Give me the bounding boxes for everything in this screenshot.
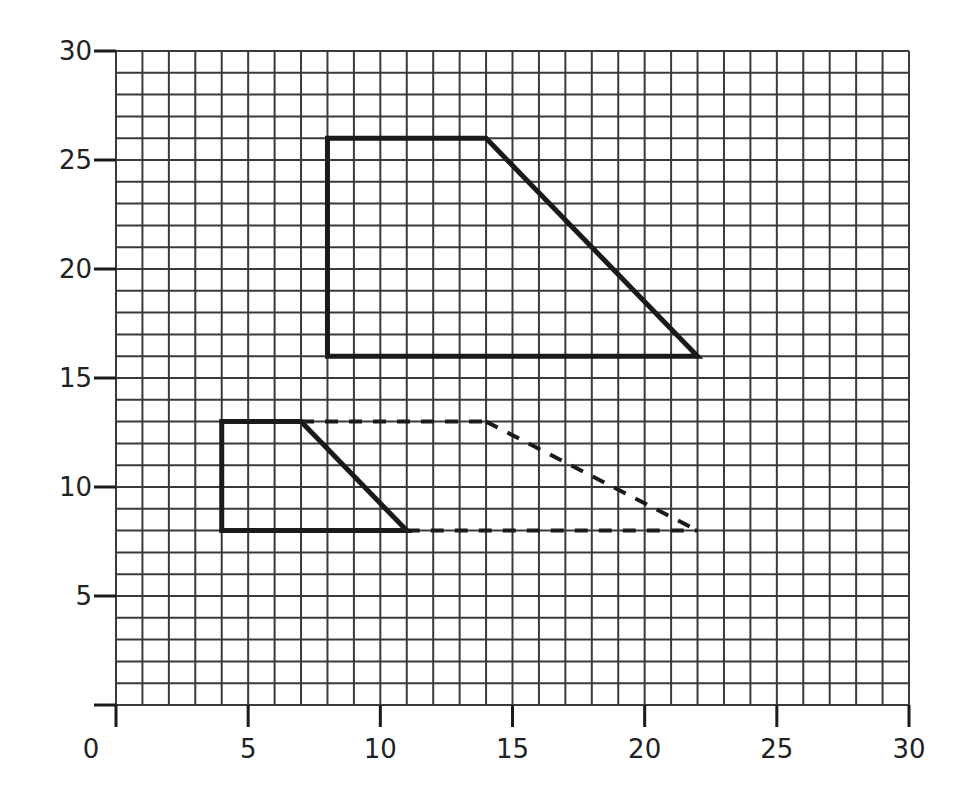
small-trapezoid bbox=[222, 422, 407, 531]
coordinate-grid-chart: 0 5 10 15 20 25 30 5 10 15 20 25 30 bbox=[0, 0, 974, 805]
y-tick-label: 10 bbox=[59, 472, 92, 502]
x-tick-label: 15 bbox=[496, 734, 529, 764]
y-tick-label: 25 bbox=[59, 145, 92, 175]
y-axis-labels: 5 10 15 20 25 30 bbox=[59, 36, 92, 611]
y-tick-label: 30 bbox=[59, 36, 92, 66]
x-tick-label: 30 bbox=[892, 734, 925, 764]
x-axis-labels: 0 5 10 15 20 25 30 bbox=[83, 734, 926, 764]
y-tick-label: 5 bbox=[75, 581, 92, 611]
x-tick-label: 10 bbox=[364, 734, 397, 764]
y-tick-label: 20 bbox=[59, 254, 92, 284]
y-tick-label: 15 bbox=[59, 363, 92, 393]
x-tick-label: 5 bbox=[240, 734, 257, 764]
x-tick-label: 25 bbox=[760, 734, 793, 764]
x-tick-label: 20 bbox=[628, 734, 661, 764]
grid-lines bbox=[116, 51, 909, 705]
x-tick-label: 0 bbox=[83, 734, 100, 764]
